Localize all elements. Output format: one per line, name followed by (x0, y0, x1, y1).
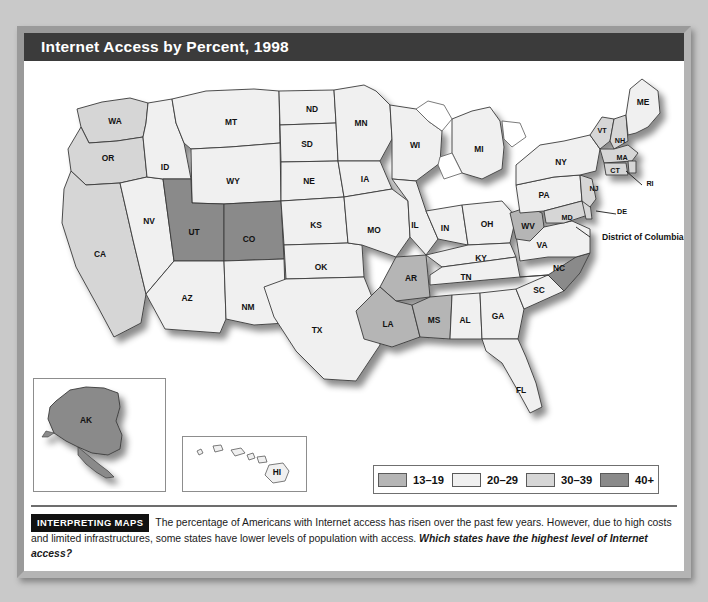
state-label-AL: AL (459, 315, 470, 325)
state-label-VA: VA (536, 240, 547, 250)
state-FL (482, 339, 542, 413)
state-label-MO: MO (367, 225, 381, 235)
state-label-WY: WY (226, 176, 240, 186)
state-label-KY: KY (475, 253, 487, 263)
caption-text: INTERPRETING MAPSThe percentage of Ameri… (31, 514, 677, 561)
state-label-AZ: AZ (181, 293, 192, 303)
state-ME (626, 79, 660, 135)
state-WY (191, 143, 281, 204)
state-RI (628, 161, 636, 173)
legend-swatch-0 (378, 473, 407, 487)
state-label-IL: IL (411, 220, 418, 230)
legend-item-2: 30–39 (526, 473, 592, 487)
state-label-OK: OK (315, 262, 328, 272)
legend-label-2: 30–39 (561, 474, 592, 486)
hawaii-islands (197, 445, 289, 483)
state-label-KS: KS (310, 220, 322, 230)
state-label-ND: ND (306, 104, 318, 114)
state-label-IA: IA (361, 174, 369, 184)
caption-block: INTERPRETING MAPSThe percentage of Ameri… (31, 505, 677, 567)
state-label-SD: SD (301, 139, 313, 149)
state-label-OH: OH (481, 219, 494, 229)
state-CO (224, 201, 284, 261)
aleutian-islands (42, 431, 54, 437)
state-label-GA: GA (492, 311, 505, 321)
legend-swatch-1 (452, 473, 481, 487)
state-label-LA: LA (382, 319, 393, 329)
state-label-IN: IN (441, 223, 449, 233)
state-label-NE: NE (303, 176, 315, 186)
page-title: Internet Access by Percent, 1998 (24, 38, 289, 56)
state-label-TN: TN (460, 272, 471, 282)
state-label-NV: NV (143, 216, 155, 226)
state-label-FL: FL (516, 385, 526, 395)
state-label-CO: CO (243, 234, 256, 244)
state-label-MD: MD (561, 213, 572, 222)
state-label-MT: MT (225, 117, 238, 127)
map-figure: Internet Access by Percent, 1998 (0, 0, 708, 602)
state-label-CT: CT (610, 166, 620, 175)
state-label-VT: VT (597, 126, 607, 135)
state-label-WI: WI (410, 140, 420, 150)
dc-annotation-label: District of Columbia, 24.2 (602, 232, 684, 242)
state-label-DE: DE (617, 207, 627, 216)
legend-item-0: 13–19 (378, 473, 444, 487)
state-label-OR: OR (102, 153, 115, 163)
state-label-ID: ID (161, 162, 169, 172)
state-label-TX: TX (312, 325, 323, 335)
state-label-ME: ME (637, 97, 650, 107)
legend-label-0: 13–19 (413, 474, 444, 486)
state-label-SC: SC (533, 285, 545, 295)
legend-swatch-3 (600, 473, 629, 487)
state-label-PA: PA (538, 190, 549, 200)
state-label-MA: MA (616, 153, 627, 162)
state-label-AR: AR (405, 273, 417, 283)
state-label-MS: MS (428, 315, 441, 325)
state-label-CA: CA (94, 249, 106, 259)
state-label-NJ: NJ (589, 184, 598, 193)
state-label-WV: WV (521, 221, 535, 231)
state-label-WA: WA (108, 116, 122, 126)
map-legend: 13–19 20–29 30–39 40+ (373, 465, 659, 494)
state-label-MN: MN (354, 118, 367, 128)
state-OK (284, 243, 364, 279)
legend-label-1: 20–29 (487, 474, 518, 486)
state-label-NC: NC (553, 263, 565, 273)
hawaii-inset: HI (182, 436, 307, 492)
alaska-label: AK (80, 415, 92, 425)
alaska-map: AK (34, 379, 163, 489)
legend-item-1: 20–29 (452, 473, 518, 487)
state-label-NH: NH (615, 136, 625, 145)
state-label-UT: UT (188, 227, 200, 237)
alaska-inset: AK (33, 378, 166, 492)
state-label-MI: MI (474, 144, 483, 154)
legend-item-3: 40+ (600, 473, 654, 487)
state-label-RI: RI (646, 179, 653, 188)
figure-title-bar: Internet Access by Percent, 1998 (24, 33, 684, 61)
legend-label-3: 40+ (635, 474, 654, 486)
state-label-NY: NY (555, 157, 567, 167)
state-label-NM: NM (241, 302, 254, 312)
hawaii-label: HI (273, 467, 281, 477)
hawaii-map: HI (183, 437, 304, 489)
legend-swatch-2 (526, 473, 555, 487)
interpreting-maps-badge: INTERPRETING MAPS (31, 514, 149, 532)
